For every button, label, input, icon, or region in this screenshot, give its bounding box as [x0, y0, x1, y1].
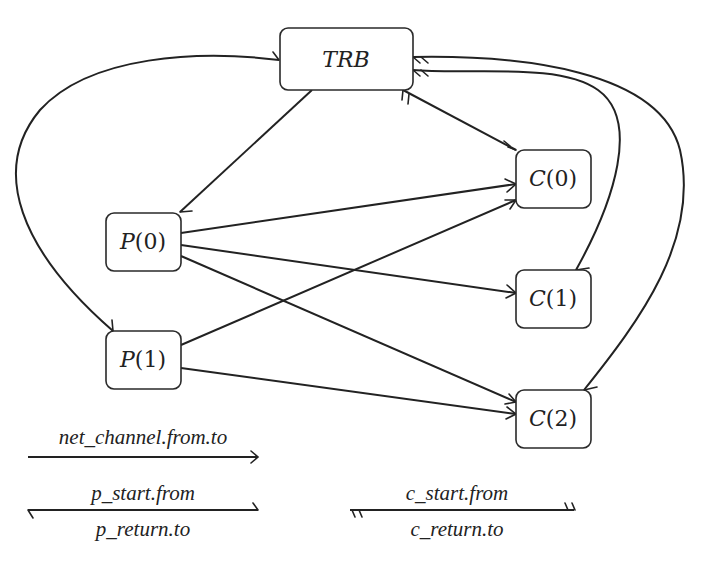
edge-p0-to-c2	[181, 256, 516, 404]
node-p1: P(1)	[106, 331, 181, 389]
node-c2-label: C(2)	[529, 406, 577, 431]
node-c1-label: C(1)	[529, 286, 577, 311]
edge-p1-to-trb	[16, 52, 279, 331]
hook-arrowhead-icon	[253, 503, 258, 510]
node-p0: P(0)	[106, 213, 181, 271]
edge-trb-to-p1	[112, 320, 113, 331]
legend-c-start-label: c_start.from	[406, 481, 508, 505]
legend-p-start-label: p_start.from	[89, 481, 195, 505]
legend-p-return-label: p_return.to	[94, 517, 190, 541]
legend: net_channel.from.to p_start.from p_retur…	[28, 425, 575, 541]
legend-net-channel-label: net_channel.from.to	[59, 425, 227, 449]
node-c0-label: C(0)	[529, 166, 577, 191]
double-tick-arrowhead-icon	[413, 57, 428, 63]
nodes: TRB P(0) P(1) C(0) C(1) C(2)	[106, 28, 591, 448]
edge-trb-c0	[402, 90, 516, 150]
legend-c-return-label: c_return.to	[410, 517, 503, 541]
node-c1: C(1)	[516, 270, 591, 328]
node-trb: TRB	[280, 28, 413, 90]
legend-net-channel: net_channel.from.to	[28, 425, 258, 463]
hook-arrowhead-icon	[28, 510, 33, 518]
node-c0: C(0)	[516, 150, 591, 208]
edge-p1-to-c2	[181, 368, 516, 419]
legend-p-start-return: p_start.from p_return.to	[28, 481, 258, 541]
hook-arrowhead-icon	[112, 320, 113, 331]
double-tick-arrowhead-icon	[352, 510, 362, 517]
edge-trb-to-p0	[180, 90, 312, 212]
hook-arrowhead-icon	[180, 211, 192, 212]
edge-c2-to-trb	[413, 57, 684, 390]
process-communication-diagram: TRB P(0) P(1) C(0) C(1) C(2) net_channel…	[0, 0, 709, 565]
node-c2: C(2)	[516, 390, 591, 448]
node-p0-label: P(0)	[119, 229, 166, 254]
node-p1-label: P(1)	[119, 347, 166, 372]
edge-p0-to-c0	[181, 179, 516, 233]
double-tick-arrowhead-icon	[565, 503, 575, 510]
legend-c-start-return: c_start.from c_return.to	[350, 481, 575, 541]
edge-p1-to-c0	[181, 200, 516, 345]
node-trb-label: TRB	[322, 47, 369, 72]
